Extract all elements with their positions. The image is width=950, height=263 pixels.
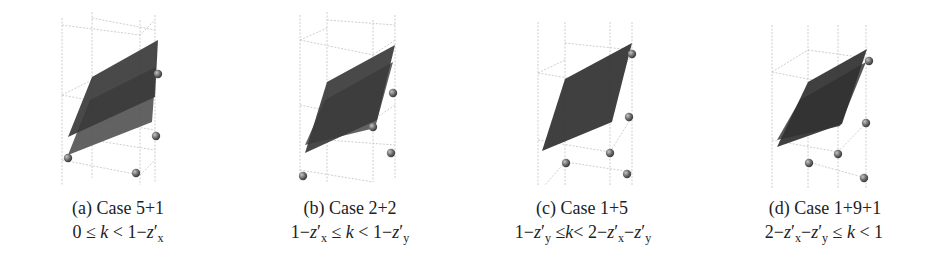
panel-b (299, 12, 397, 182)
lattice-point-sphere (623, 170, 631, 178)
grid-line (610, 117, 632, 152)
grid-line (772, 50, 808, 72)
surface-plane (305, 45, 395, 153)
caption-a-condition: 0 ≤ k < 1−z′x (28, 221, 208, 249)
lattice-point-sphere (389, 89, 397, 97)
surface-plane (777, 49, 867, 147)
grid-line (545, 162, 565, 185)
grid-line (327, 140, 395, 145)
lattice-point-sphere (628, 50, 636, 58)
lattice-point-sphere (299, 172, 307, 180)
lattice-point-sphere (865, 57, 873, 65)
lattice-point-sphere (606, 149, 614, 157)
panel-c (538, 22, 636, 185)
lattice-point-sphere (64, 154, 72, 162)
lattice-point-sphere (562, 159, 570, 167)
lattice-point-sphere (834, 150, 842, 158)
caption-b-title: (b) Case 2+2 (280, 197, 420, 219)
grid-line (140, 20, 155, 35)
caption-c-condition: 1−z′y ≤k< 2−z′x−z′y (478, 221, 688, 249)
condition-c-text: 1−z′y ≤k< 2−z′x−z′y (515, 222, 651, 242)
lattice-point-sphere (625, 113, 633, 121)
lattice-point-sphere (154, 70, 162, 78)
grid-line (62, 25, 140, 35)
lattice-point-sphere (860, 174, 868, 182)
condition-a-text: 0 ≤ k < 1−z′x (72, 222, 163, 242)
grid-line (808, 162, 866, 178)
grid-line (300, 40, 373, 55)
grid-line (538, 60, 565, 73)
grid-line (327, 20, 395, 25)
panel-a (62, 12, 162, 185)
grid-line (140, 160, 155, 175)
grid-line (300, 170, 373, 182)
surface-plane (542, 43, 632, 151)
grid-line (62, 160, 140, 175)
caption-b-condition: 1−z′x ≤ k < 1−z′y (250, 221, 450, 249)
grid-line (565, 162, 632, 172)
condition-d-text: 2−z′x−z′y ≤ k < 1 (765, 222, 883, 242)
grid-line (92, 18, 155, 30)
lattice-point-sphere (805, 159, 813, 167)
lattice-point-sphere (862, 119, 870, 127)
caption-a-title: (a) Case 5+1 (48, 197, 188, 219)
grid-line (838, 123, 866, 152)
caption-d-condition: 2−z′x−z′y ≤ k < 1 (718, 221, 930, 249)
condition-b-text: 1−z′x ≤ k < 1−z′y (291, 222, 409, 242)
caption-c-title: (c) Case 1+5 (512, 197, 652, 219)
grid-line (300, 28, 327, 40)
lattice-point-sphere (152, 132, 160, 140)
panel-d (772, 25, 873, 188)
lattice-point-sphere (387, 149, 395, 157)
lattice-point-sphere (369, 123, 377, 131)
caption-d-title: (d) Case 1+9+1 (750, 197, 900, 219)
lattice-point-sphere (132, 169, 140, 177)
